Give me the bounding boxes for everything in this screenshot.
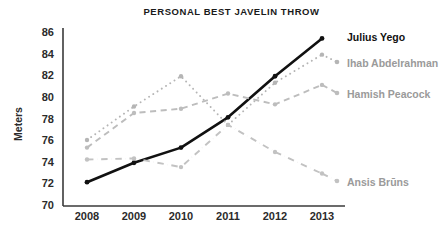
data-point <box>179 145 184 150</box>
series-label-connector-1 <box>322 55 337 62</box>
data-point <box>132 160 137 165</box>
data-point <box>85 180 90 185</box>
data-point <box>132 104 136 108</box>
data-point <box>226 115 231 120</box>
data-point <box>132 156 136 160</box>
data-point <box>273 81 277 85</box>
data-point <box>226 91 230 95</box>
series-end-marker-1 <box>335 60 340 65</box>
series-end-marker-3 <box>335 179 340 184</box>
data-point <box>85 138 89 142</box>
series-label-connector-2 <box>322 85 337 93</box>
data-point <box>273 102 277 106</box>
data-point <box>320 36 325 41</box>
data-point <box>179 74 183 78</box>
data-point <box>179 106 183 110</box>
data-point <box>273 74 278 79</box>
data-point <box>85 157 89 161</box>
series-label-1: Ihab Abdelrahman <box>347 57 438 69</box>
data-point <box>226 123 230 127</box>
data-point <box>132 111 136 115</box>
chart-root: PERSONAL BEST JAVELIN THROW Meters 86848… <box>0 0 445 246</box>
series-end-marker-2 <box>335 91 340 96</box>
series-line-0 <box>87 38 322 182</box>
series-group <box>85 36 340 185</box>
series-line-2 <box>87 85 322 148</box>
data-point <box>85 145 89 149</box>
series-label-3: Ansis Brūns <box>347 176 409 188</box>
series-label-2: Hamish Peacock <box>347 88 430 100</box>
series-label-connector-3 <box>322 174 337 181</box>
data-point <box>273 150 277 154</box>
data-point <box>179 165 183 169</box>
series-label-0: Julius Yego <box>347 31 405 43</box>
